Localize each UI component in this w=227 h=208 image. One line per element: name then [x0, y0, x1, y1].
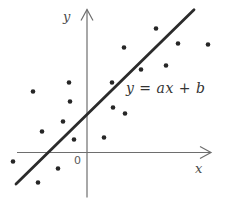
data-point [139, 67, 144, 72]
x-axis-label: x [195, 162, 202, 175]
data-point [67, 80, 72, 85]
origin-label: 0 [74, 155, 81, 166]
data-point [154, 26, 159, 31]
data-point [123, 111, 128, 116]
data-point [164, 63, 169, 68]
data-point [31, 89, 36, 94]
data-point [111, 105, 116, 110]
plot-canvas [0, 0, 227, 208]
data-point [102, 135, 107, 140]
data-point [176, 41, 181, 46]
data-point [206, 42, 211, 47]
fit-line [16, 10, 194, 184]
data-point [11, 159, 16, 164]
data-point [72, 137, 77, 142]
data-point [56, 166, 61, 171]
data-point [110, 80, 115, 85]
data-point [68, 99, 73, 104]
scatter-plot-figure: y x 0 y = ax + b [0, 0, 227, 208]
data-point [40, 129, 45, 134]
fit-line-equation-label: y = ax + b [126, 81, 205, 95]
data-point [122, 45, 127, 50]
data-point [36, 180, 41, 185]
y-axis-label: y [63, 10, 70, 23]
data-point [61, 119, 66, 124]
